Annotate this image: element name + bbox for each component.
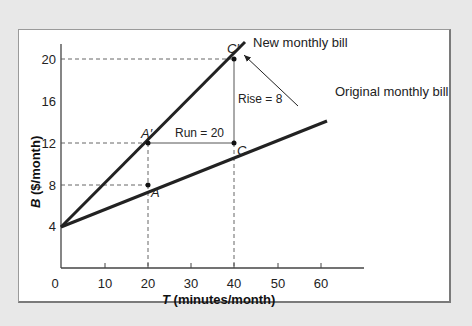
y-tick-label: 12 (42, 136, 56, 151)
x-tick-label: 40 (227, 276, 241, 291)
x-ticks (105, 263, 321, 268)
x-tick-label: 60 (314, 276, 328, 291)
x-axis-title: T (minutes/month) (162, 292, 275, 307)
point-a-label: A (150, 185, 160, 200)
guide-lines (61, 59, 234, 268)
point-a (146, 183, 151, 188)
rise-label: Rise = 8 (238, 92, 283, 106)
y-tick-label: 20 (42, 52, 56, 67)
x-tick-label: 20 (141, 276, 155, 291)
y-tick-label: 4 (49, 219, 56, 234)
original-monthly-bill-label: Original monthly bill (335, 84, 449, 99)
point-c-prime-label: C′ (227, 41, 239, 56)
point-c-prime (232, 57, 237, 62)
run-label: Run = 20 (175, 126, 224, 140)
y-tick-label: 8 (49, 178, 56, 193)
x-tick-label: 10 (98, 276, 112, 291)
origin-label: 0 (51, 276, 58, 291)
point-c (232, 141, 237, 146)
point-a-prime (146, 141, 151, 146)
chart: 0 10 20 30 40 50 60 4 8 12 16 20 T (minu… (0, 0, 472, 326)
y-axis-title: B ($/month) (28, 136, 43, 208)
point-c-label: C (237, 143, 247, 158)
x-tick-label: 50 (271, 276, 285, 291)
point-a-prime-label: A′ (140, 126, 153, 141)
y-tick-label: 16 (42, 94, 56, 109)
x-tick-label: 30 (184, 276, 198, 291)
new-monthly-bill-label: New monthly bill (253, 35, 348, 50)
